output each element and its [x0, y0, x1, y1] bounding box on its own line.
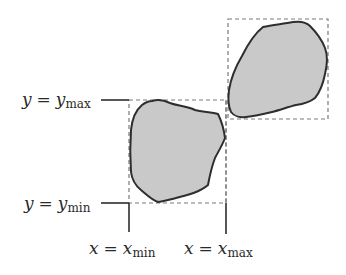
- x-min-label-sub: min: [132, 246, 155, 260]
- x-min-label: x=xmin: [89, 240, 155, 259]
- x-min-label-base: x: [123, 238, 133, 258]
- x-max-label: x=xmax: [184, 240, 253, 259]
- x-min-label-eq: =: [104, 238, 118, 258]
- x-min-label-var: x: [89, 238, 99, 258]
- upper-blob-shape: [228, 22, 326, 118]
- y-min-label-sub: min: [67, 201, 90, 215]
- y-max-label-var: y: [22, 89, 32, 109]
- diagram-canvas: [0, 0, 346, 275]
- x-max-label-var: x: [184, 238, 194, 258]
- x-max-label-eq: =: [199, 238, 213, 258]
- y-min-label: y=ymin: [24, 195, 90, 214]
- y-min-label-var: y: [24, 193, 34, 213]
- y-min-label-eq: =: [39, 193, 53, 213]
- lower-blob-shape: [130, 100, 225, 202]
- y-max-label-eq: =: [37, 89, 51, 109]
- x-max-label-sub: max: [227, 246, 252, 260]
- x-max-label-base: x: [218, 238, 228, 258]
- y-max-label-sub: max: [65, 97, 90, 111]
- y-max-label: y=ymax: [22, 91, 91, 110]
